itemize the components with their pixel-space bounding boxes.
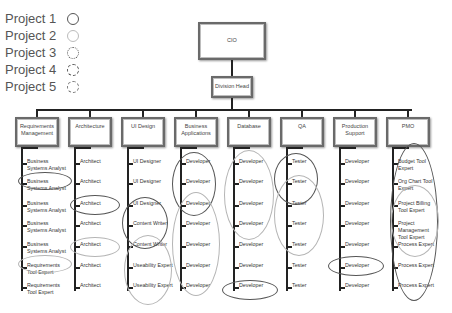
legend-label: Project 1	[5, 11, 63, 26]
role-item[interactable]: Developer	[239, 178, 279, 185]
role-item[interactable]: Developer	[345, 200, 385, 207]
connector	[180, 147, 197, 149]
role-item[interactable]: UI Designer	[133, 200, 173, 207]
role-item[interactable]: Architect	[80, 262, 120, 269]
role-item[interactable]: Developer	[345, 282, 385, 289]
department-box[interactable]: UI Design	[121, 117, 165, 147]
department-box[interactable]: PMO	[386, 117, 430, 147]
legend-item-project-4: Project 4	[5, 61, 79, 78]
role-item[interactable]: Developer	[186, 241, 226, 248]
role-item[interactable]: Developer	[239, 282, 279, 289]
division-head-box[interactable]: Division Head	[211, 76, 253, 98]
light-circle-icon	[67, 30, 79, 42]
role-item[interactable]: Architect	[80, 220, 120, 227]
connector	[301, 110, 303, 117]
connector	[127, 147, 144, 149]
connector	[233, 147, 250, 149]
spine-connector	[127, 147, 129, 291]
spine-connector	[180, 147, 182, 291]
connector	[407, 110, 409, 117]
role-item[interactable]: Architect	[80, 200, 120, 207]
spine-connector	[392, 147, 394, 291]
role-item[interactable]: Developer	[345, 220, 385, 227]
role-item[interactable]: Process Expert	[398, 262, 438, 269]
dotted-circle-icon	[67, 47, 79, 59]
role-item[interactable]: Developer	[239, 262, 279, 269]
role-item[interactable]: Content Writer	[133, 241, 173, 248]
role-item[interactable]: Budget Tool Expert	[398, 158, 438, 172]
spine-connector	[286, 147, 288, 291]
role-item[interactable]: Tester	[292, 200, 332, 207]
role-item[interactable]: Architect	[80, 282, 120, 289]
connector	[392, 147, 409, 149]
role-item[interactable]: Architect	[80, 241, 120, 248]
department-box[interactable]: Database	[227, 117, 271, 147]
role-item[interactable]: Business Systems Analyst	[27, 241, 67, 255]
legend-label: Project 5	[5, 79, 63, 94]
role-item[interactable]: Developer	[345, 158, 385, 165]
connector	[195, 110, 197, 117]
role-item[interactable]: Developer	[345, 178, 385, 185]
role-item[interactable]: Tester	[292, 241, 332, 248]
role-item[interactable]: Developer	[239, 220, 279, 227]
role-item[interactable]: Developer	[186, 158, 226, 165]
role-item[interactable]: Developer	[345, 262, 385, 269]
legend-item-project-2: Project 2	[5, 27, 79, 44]
connector	[248, 110, 250, 117]
department-box[interactable]: QA	[280, 117, 324, 147]
role-item[interactable]: Useability Expert	[133, 262, 173, 269]
role-item[interactable]: Developer	[186, 282, 226, 289]
connector	[142, 110, 144, 117]
role-item[interactable]: UI Designer	[133, 178, 173, 185]
role-item[interactable]: Tester	[292, 220, 332, 227]
role-item[interactable]: UI Designer	[133, 158, 173, 165]
role-item[interactable]: Business Systems Analyst	[27, 220, 67, 234]
role-item[interactable]: Developer	[239, 241, 279, 248]
role-item[interactable]: Org Chart Tool Expert	[398, 178, 438, 192]
role-item[interactable]: Useability Expert	[133, 282, 173, 289]
department-box[interactable]: Production Support	[333, 117, 377, 147]
role-item[interactable]: Tester	[292, 178, 332, 185]
role-item[interactable]: Process Expert	[398, 282, 438, 289]
role-item[interactable]: Requirements Tool Expert	[27, 262, 67, 276]
role-item[interactable]: Business Systems Analyst	[27, 178, 67, 192]
role-item[interactable]: Content Writer	[133, 220, 173, 227]
spine-connector	[339, 147, 341, 291]
role-item[interactable]: Developer	[186, 262, 226, 269]
role-item[interactable]: Business Systems Analyst	[27, 200, 67, 214]
role-item[interactable]: Process Expert	[398, 241, 438, 248]
legend-label: Project 2	[5, 28, 63, 43]
solid-circle-icon	[67, 13, 79, 25]
role-item[interactable]: Tester	[292, 282, 332, 289]
connector	[36, 110, 38, 117]
role-item[interactable]: Developer	[186, 200, 226, 207]
connector	[74, 147, 91, 149]
role-item[interactable]: Architect	[80, 158, 120, 165]
role-item[interactable]: Tester	[292, 158, 332, 165]
connector	[231, 60, 233, 76]
connector	[286, 147, 303, 149]
role-item[interactable]: Requirements Tool Expert	[27, 282, 67, 296]
role-item[interactable]: Developer	[186, 178, 226, 185]
role-item[interactable]: Project Management Tool Expert	[398, 220, 438, 241]
dash-dot-circle-icon	[67, 81, 79, 93]
dashed-circle-icon	[67, 64, 79, 76]
role-item[interactable]: Developer	[186, 220, 226, 227]
role-item[interactable]: Developer	[239, 200, 279, 207]
role-item[interactable]: Developer	[345, 241, 385, 248]
legend-label: Project 4	[5, 62, 63, 77]
department-box[interactable]: Architecture	[68, 117, 112, 147]
role-item[interactable]: Developer	[239, 158, 279, 165]
department-box[interactable]: Business Applications	[174, 117, 218, 147]
role-item[interactable]: Tester	[292, 262, 332, 269]
connector	[21, 147, 38, 149]
role-item[interactable]: Project Billing Tool Expert	[398, 200, 438, 214]
role-item[interactable]: Architect	[80, 178, 120, 185]
department-box[interactable]: Requirements Management	[15, 117, 59, 147]
connector	[354, 110, 356, 117]
legend-item-project-5: Project 5	[5, 78, 79, 95]
spine-connector	[74, 147, 76, 291]
cio-box[interactable]: CIO	[198, 22, 266, 60]
role-item[interactable]: Business Systems Analyst	[27, 158, 67, 172]
legend-item-project-3: Project 3	[5, 44, 79, 61]
